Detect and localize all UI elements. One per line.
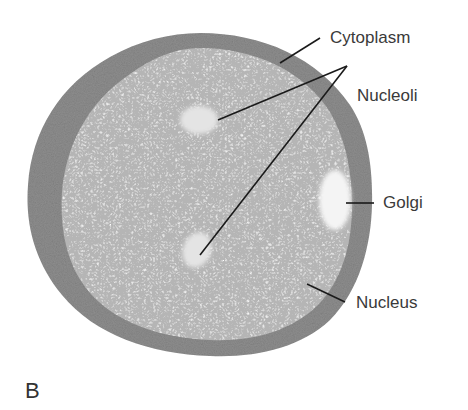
label-golgi: Golgi: [383, 194, 423, 211]
golgi-body: [319, 170, 351, 230]
label-cytoplasm: Cytoplasm: [330, 29, 410, 46]
cell-diagram: Cytoplasm Nucleoli Golgi Nucleus B: [0, 0, 468, 410]
panel-letter: B: [25, 380, 40, 402]
nucleolus-upper: [180, 106, 218, 134]
label-nucleus: Nucleus: [356, 294, 417, 311]
label-nucleoli: Nucleoli: [357, 87, 417, 104]
